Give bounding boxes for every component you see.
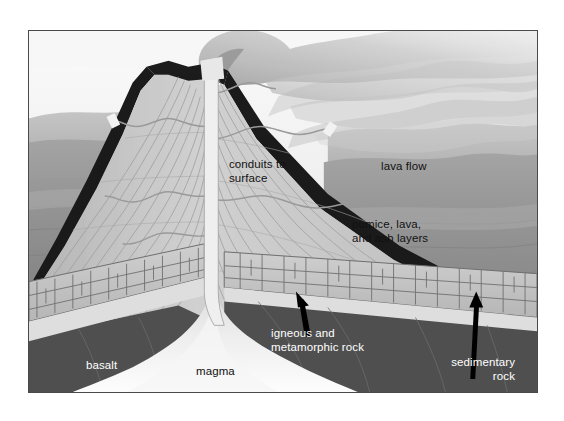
volcano-cross-section-illustration <box>29 31 537 392</box>
diagram-page: conduits to surface lava flow pumice, la… <box>0 0 564 421</box>
figure-frame: conduits to surface lava flow pumice, la… <box>28 30 538 393</box>
crater-throat <box>200 57 224 81</box>
